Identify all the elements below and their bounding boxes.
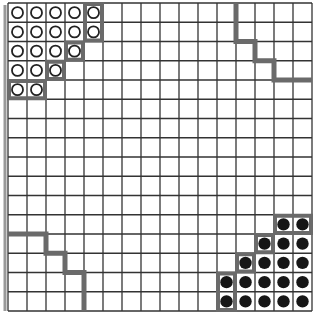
board-cell[interactable] — [122, 42, 141, 61]
board-cell[interactable] — [46, 234, 65, 253]
board-cell[interactable] — [122, 80, 141, 99]
board-cell[interactable] — [274, 292, 293, 311]
board-cell[interactable] — [160, 99, 179, 118]
board-cell[interactable] — [122, 157, 141, 176]
board-cell[interactable] — [122, 234, 141, 253]
board-cell[interactable] — [236, 99, 255, 118]
board-cell[interactable] — [255, 80, 274, 99]
board-cell[interactable] — [255, 22, 274, 41]
board-cell[interactable] — [65, 80, 84, 99]
board-cell[interactable] — [141, 22, 160, 41]
board-cell[interactable] — [293, 99, 312, 118]
board-cell[interactable] — [198, 42, 217, 61]
board-cell[interactable] — [122, 292, 141, 311]
board-cell[interactable] — [217, 253, 236, 272]
board-cell[interactable] — [27, 253, 46, 272]
board-cell[interactable] — [198, 22, 217, 41]
board-cell[interactable] — [160, 80, 179, 99]
board-cell[interactable] — [84, 234, 103, 253]
board-cell[interactable] — [46, 196, 65, 215]
board-cell[interactable] — [103, 253, 122, 272]
board-cell[interactable] — [160, 176, 179, 195]
board-cell[interactable] — [160, 22, 179, 41]
board-cell[interactable] — [46, 157, 65, 176]
board-cell[interactable] — [179, 61, 198, 80]
board-cell[interactable] — [198, 138, 217, 157]
board-cell[interactable] — [84, 215, 103, 234]
board-cell[interactable] — [179, 99, 198, 118]
board-cell[interactable] — [141, 234, 160, 253]
board-cell[interactable] — [198, 196, 217, 215]
board-cell[interactable] — [8, 273, 27, 292]
board-cell[interactable] — [27, 273, 46, 292]
board-cell[interactable] — [141, 292, 160, 311]
board-cell[interactable] — [217, 234, 236, 253]
board-cell[interactable] — [274, 273, 293, 292]
board-cell[interactable] — [46, 253, 65, 272]
board-cell[interactable] — [65, 42, 84, 61]
board-cell[interactable] — [217, 99, 236, 118]
board-cell[interactable] — [103, 138, 122, 157]
board-cell[interactable] — [8, 61, 27, 80]
board-cell[interactable] — [160, 42, 179, 61]
board-cell[interactable] — [160, 196, 179, 215]
board-cell[interactable] — [8, 119, 27, 138]
board-cell[interactable] — [293, 215, 312, 234]
board-cell[interactable] — [8, 234, 27, 253]
board-cell[interactable] — [8, 42, 27, 61]
board-cell[interactable] — [46, 292, 65, 311]
board-cell[interactable] — [217, 138, 236, 157]
board-cell[interactable] — [65, 61, 84, 80]
board-cell[interactable] — [46, 42, 65, 61]
board-cell[interactable] — [255, 215, 274, 234]
board-cell[interactable] — [255, 157, 274, 176]
board-cell[interactable] — [103, 42, 122, 61]
board-cell[interactable] — [179, 157, 198, 176]
board-cell[interactable] — [122, 138, 141, 157]
board-cell[interactable] — [160, 138, 179, 157]
board-cell[interactable] — [122, 196, 141, 215]
board-cell[interactable] — [46, 22, 65, 41]
board-cell[interactable] — [65, 99, 84, 118]
board-cell[interactable] — [141, 61, 160, 80]
board-cell[interactable] — [236, 215, 255, 234]
board-cell[interactable] — [236, 80, 255, 99]
board-cell[interactable] — [141, 138, 160, 157]
board-cell[interactable] — [274, 99, 293, 118]
board-cell[interactable] — [160, 119, 179, 138]
board-cell[interactable] — [236, 176, 255, 195]
board-cell[interactable] — [255, 176, 274, 195]
board-cell[interactable] — [84, 273, 103, 292]
board-cell[interactable] — [255, 292, 274, 311]
board-cell[interactable] — [293, 80, 312, 99]
board-cell[interactable] — [217, 42, 236, 61]
board-cell[interactable] — [141, 119, 160, 138]
board-cell[interactable] — [122, 22, 141, 41]
board-cell[interactable] — [274, 196, 293, 215]
board-cell[interactable] — [27, 22, 46, 41]
board-cell[interactable] — [65, 253, 84, 272]
board-cell[interactable] — [179, 138, 198, 157]
board-cell[interactable] — [141, 80, 160, 99]
board-cell[interactable] — [46, 273, 65, 292]
board-cell[interactable] — [27, 3, 46, 22]
board-cell[interactable] — [65, 157, 84, 176]
board-cell[interactable] — [217, 80, 236, 99]
board-cell[interactable] — [103, 157, 122, 176]
board-cell[interactable] — [160, 292, 179, 311]
board-cell[interactable] — [141, 3, 160, 22]
board-cell[interactable] — [122, 3, 141, 22]
board-cell[interactable] — [65, 234, 84, 253]
board-cell[interactable] — [141, 99, 160, 118]
board-cell[interactable] — [103, 176, 122, 195]
board-cell[interactable] — [46, 61, 65, 80]
board-cell[interactable] — [84, 196, 103, 215]
board-cell[interactable] — [217, 3, 236, 22]
board-cell[interactable] — [65, 292, 84, 311]
board-cell[interactable] — [274, 138, 293, 157]
board-cell[interactable] — [255, 99, 274, 118]
board-cell[interactable] — [84, 80, 103, 99]
board-cell[interactable] — [293, 176, 312, 195]
board-cell[interactable] — [84, 292, 103, 311]
board-cell[interactable] — [8, 138, 27, 157]
